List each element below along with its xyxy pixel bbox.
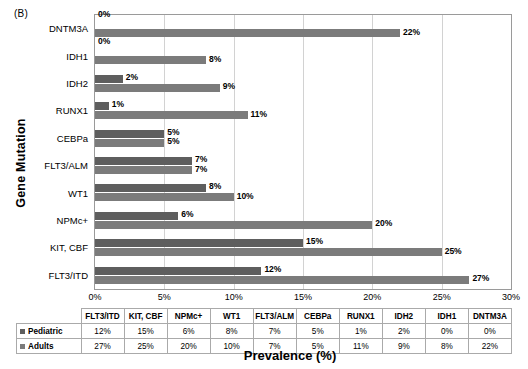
bar-pediatric xyxy=(95,102,109,110)
bar-adults xyxy=(95,193,234,201)
bar-adults xyxy=(95,166,192,174)
bar-adults xyxy=(95,29,400,37)
x-axis-tick-label: 15% xyxy=(294,292,312,302)
bar-value-label-adults: 5% xyxy=(167,137,179,145)
table-cell: 8% xyxy=(210,324,253,339)
table-column-header: FLT3/ALM xyxy=(253,309,296,324)
bar-adults xyxy=(95,221,372,229)
bar-group: 6%20% xyxy=(95,207,511,234)
bar-value-label-pediatric: 12% xyxy=(264,265,281,273)
y-axis-tick-labels: DNTM3AIDH1IDH2RUNX1CEBPaFLT3/ALMWT1NPMc+… xyxy=(36,14,92,290)
bar-value-label-adults: 27% xyxy=(472,274,489,282)
panel-label: (B) xyxy=(14,8,28,19)
table-column-header: DNTM3A xyxy=(468,309,511,324)
bar-group: 12%27% xyxy=(95,262,511,289)
x-axis-tick-label: 0% xyxy=(88,292,101,302)
bar-value-label-pediatric: 1% xyxy=(112,100,124,108)
table-cell: 0% xyxy=(425,324,468,339)
bar-value-label-pediatric: 5% xyxy=(167,128,179,136)
x-axis-tick-label: 25% xyxy=(433,292,451,302)
x-axis-tick-label: 5% xyxy=(158,292,171,302)
bar-pediatric xyxy=(95,267,261,275)
bar-value-label-adults: 9% xyxy=(223,82,235,90)
bar-adults xyxy=(95,84,220,92)
bar-group: 1%11% xyxy=(95,97,511,124)
bar-value-label-pediatric: 7% xyxy=(195,155,207,163)
bar-value-label-adults: 10% xyxy=(237,192,254,200)
bar-value-label-pediatric: 8% xyxy=(209,182,221,190)
bar-group: 2%9% xyxy=(95,70,511,97)
table-cell: 7% xyxy=(253,324,296,339)
plot-area: 0%22%0%8%2%9%1%11%5%5%7%7%8%10%6%20%15%2… xyxy=(94,14,512,290)
table-cell: 0% xyxy=(468,324,511,339)
bar-value-label-pediatric: 2% xyxy=(126,73,138,81)
y-axis-tick-label: DNTM3A xyxy=(49,15,88,42)
bar-group: 5%5% xyxy=(95,125,511,152)
bar-value-label-adults: 25% xyxy=(445,247,462,255)
bar-pediatric xyxy=(95,157,192,165)
table-column-header: IDH1 xyxy=(425,309,468,324)
y-axis-tick-label: RUNX1 xyxy=(56,97,88,124)
bar-value-label-adults: 7% xyxy=(195,165,207,173)
y-axis-tick-label: FLT3/ITD xyxy=(49,262,88,289)
table-cell: 5% xyxy=(296,324,339,339)
y-axis-tick-label: IDH1 xyxy=(66,42,88,69)
x-axis-tick-label: 30% xyxy=(502,292,520,302)
bar-adults xyxy=(95,111,248,119)
x-axis-tick-label: 10% xyxy=(225,292,243,302)
table-column-header: IDH2 xyxy=(382,309,425,324)
bar-pediatric xyxy=(95,184,206,192)
legend-entry: Pediatric xyxy=(17,324,82,339)
bar-value-label-pediatric: 6% xyxy=(181,210,193,218)
x-axis-title: Prevalence (%) xyxy=(0,348,528,363)
bar-group: 0%22% xyxy=(95,15,511,42)
table-column-header: FLT3/ITD xyxy=(81,309,124,324)
bar-group: 8%10% xyxy=(95,179,511,206)
y-axis-tick-label: WT1 xyxy=(68,179,88,206)
bar-value-label-pediatric: 15% xyxy=(306,237,323,245)
bar-chart: DNTM3AIDH1IDH2RUNX1CEBPaFLT3/ALMWT1NPMc+… xyxy=(36,14,512,290)
bar-pediatric xyxy=(95,212,178,220)
y-axis-tick-label: NPMc+ xyxy=(57,207,88,234)
table-column-header: RUNX1 xyxy=(339,309,382,324)
bar-adults xyxy=(95,139,164,147)
bar-value-label-pediatric: 0% xyxy=(98,10,110,18)
y-axis-title-text: Gene Mutation xyxy=(14,118,28,207)
y-axis-tick-label: IDH2 xyxy=(66,70,88,97)
bar-value-label-adults: 8% xyxy=(209,55,221,63)
table-column-header: CEBPa xyxy=(296,309,339,324)
legend-swatch-icon xyxy=(20,329,25,334)
bar-group: 7%7% xyxy=(95,152,511,179)
bar-adults xyxy=(95,248,442,256)
table-column-header: NPMc+ xyxy=(167,309,210,324)
bar-pediatric xyxy=(95,239,303,247)
bar-value-label-adults: 20% xyxy=(375,219,392,227)
bar-adults xyxy=(95,276,469,284)
table-column-header: WT1 xyxy=(210,309,253,324)
table-cell: 2% xyxy=(382,324,425,339)
table-cell: 15% xyxy=(124,324,167,339)
bar-adults xyxy=(95,56,206,64)
bar-pediatric xyxy=(95,75,123,83)
bar-value-label-adults: 11% xyxy=(251,110,268,118)
bar-group: 0%8% xyxy=(95,42,511,69)
legend-label: Pediatric xyxy=(28,327,63,336)
table-column-header: KIT, CBF xyxy=(124,309,167,324)
y-axis-tick-label: FLT3/ALM xyxy=(44,152,88,179)
table-cell: 12% xyxy=(81,324,124,339)
bar-value-label-adults: 22% xyxy=(403,28,420,36)
table-corner-cell xyxy=(17,309,82,324)
x-axis-tick-label: 20% xyxy=(363,292,381,302)
bar-value-label-pediatric: 0% xyxy=(98,37,110,45)
x-axis-tick-labels: 0%5%10%15%20%25%30% xyxy=(94,292,512,308)
table-row: Pediatric12%15%6%8%7%5%1%2%0%0% xyxy=(17,324,512,339)
bar-pediatric xyxy=(95,130,164,138)
table-cell: 6% xyxy=(167,324,210,339)
bar-group: 15%25% xyxy=(95,234,511,261)
table-cell: 1% xyxy=(339,324,382,339)
y-axis-tick-label: KIT, CBF xyxy=(50,234,88,261)
y-axis-tick-label: CEBPa xyxy=(57,125,88,152)
y-axis-title: Gene Mutation xyxy=(8,55,34,270)
table-header-row: FLT3/ITDKIT, CBFNPMc+WT1FLT3/ALMCEBPaRUN… xyxy=(17,309,512,324)
